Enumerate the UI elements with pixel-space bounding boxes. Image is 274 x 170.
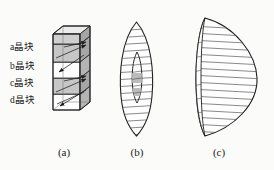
- slab-label-d: d晶块: [10, 96, 35, 106]
- caption-c: (c): [207, 147, 231, 158]
- slab-label-b: b晶块: [10, 62, 35, 72]
- slab-label-c: c晶块: [10, 79, 34, 89]
- caption-a: (a): [52, 147, 76, 158]
- figure-graphics: [0, 0, 274, 170]
- figure-container: a晶块 b晶块 c晶块 d晶块 (a) (b) (c): [0, 0, 274, 170]
- panel-b-lens: [112, 22, 162, 136]
- panel-c-lens: [190, 18, 264, 136]
- caption-b: (b): [125, 147, 149, 158]
- slab-label-a: a晶块: [10, 43, 34, 53]
- panel-a-block-diagram: [53, 26, 90, 110]
